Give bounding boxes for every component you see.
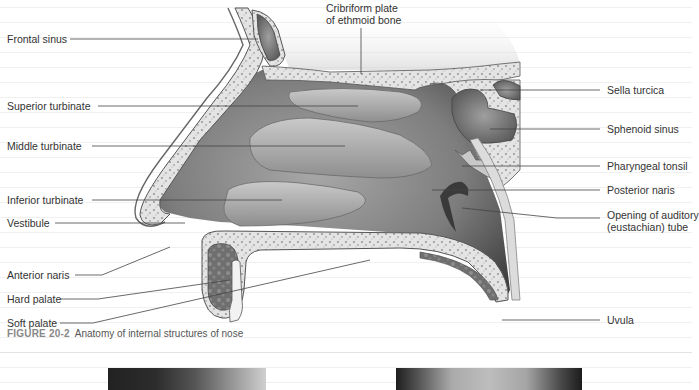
label-sphenoid-sinus: Sphenoid sinus — [607, 123, 679, 135]
label-opening-auditory-tube-line2: (eustachian) tube — [607, 221, 688, 233]
label-opening-auditory-tube-line1: Opening of auditory — [607, 209, 699, 221]
figure-caption: FIGURE 20-2Anatomy of internal structure… — [7, 328, 243, 339]
label-sella-turcica: Sella turcica — [607, 84, 664, 96]
photo-left-partial — [108, 368, 266, 390]
figure-number: FIGURE 20-2 — [7, 328, 70, 339]
palate-shape — [202, 231, 508, 318]
photo-right-partial — [396, 368, 582, 390]
label-hard-palate: Hard palate — [7, 293, 61, 305]
label-superior-turbinate: Superior turbinate — [7, 100, 90, 112]
label-posterior-naris: Posterior naris — [607, 184, 675, 196]
label-vestibule: Vestibule — [7, 217, 50, 229]
label-frontal-sinus: Frontal sinus — [7, 33, 67, 45]
section-divider — [0, 352, 692, 353]
label-inferior-turbinate: Inferior turbinate — [7, 194, 83, 206]
label-uvula: Uvula — [607, 314, 634, 326]
label-pharyngeal-tonsil: Pharyngeal tonsil — [607, 160, 688, 172]
label-middle-turbinate: Middle turbinate — [7, 140, 82, 152]
label-anterior-naris: Anterior naris — [7, 269, 69, 281]
label-cribriform-plate-line2: of ethmoid bone — [326, 14, 401, 26]
figure-caption-text: Anatomy of internal structures of nose — [75, 328, 243, 339]
label-cribriform-plate-line1: Cribriform plate — [326, 2, 398, 14]
